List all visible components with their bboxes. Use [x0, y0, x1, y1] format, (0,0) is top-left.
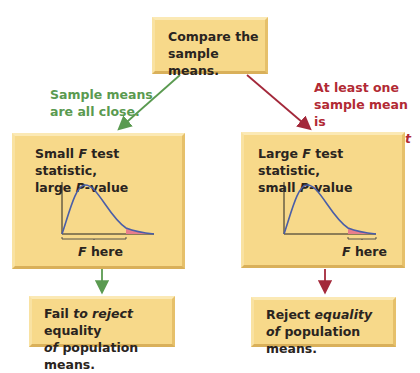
- left-note-line1: Sample means: [50, 86, 153, 103]
- top-box-line2: sample means.: [168, 45, 265, 79]
- left-note-line2: are all close.: [50, 103, 153, 120]
- fail-to-reject-box: Fail to reject equality of population me…: [29, 296, 175, 347]
- f-distribution-curve-right: [280, 180, 390, 240]
- small-f-line1: Small F test statistic,: [35, 145, 182, 179]
- fail-line1: Fail to reject equality: [44, 305, 172, 339]
- arrow-to-right-box: [247, 75, 309, 128]
- f-distribution-curve-left: [58, 180, 168, 240]
- f-here-label-left: F here: [78, 243, 123, 260]
- reject-line2: of population means.: [266, 323, 393, 357]
- top-box-line1: Compare the: [168, 28, 265, 45]
- compare-means-box: Compare the sample means.: [152, 17, 268, 74]
- reject-box: Reject equality of population means.: [251, 297, 396, 347]
- f-here-label-right: F here: [342, 243, 387, 260]
- reject-line1: Reject equality: [266, 306, 393, 323]
- fail-line2: of population means.: [44, 339, 172, 373]
- right-note-line2: sample mean is: [314, 96, 420, 130]
- right-note-line1: At least one: [314, 79, 420, 96]
- large-f-line1: Large F test statistic,: [258, 145, 402, 179]
- left-branch-note: Sample means are all close.: [50, 86, 153, 120]
